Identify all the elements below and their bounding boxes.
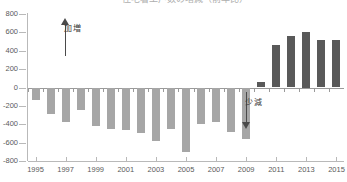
x-axis-tick-label: 2011 (261, 165, 291, 174)
bar-2000 (107, 88, 115, 129)
x-axis-tick (133, 88, 134, 92)
x-axis-tick (148, 88, 149, 92)
annotation-decrease-label: 減少 (251, 98, 261, 106)
bar-chart: 住宅着工戸数の増減（前年比） 8006004002000-200-400-600… (0, 0, 347, 182)
x-axis-bottom-tick (336, 157, 337, 161)
y-axis-tick-label: 800 (0, 10, 18, 18)
x-axis-bottom-tick (306, 157, 307, 161)
y-axis-tick (19, 143, 26, 144)
y-axis-tick (19, 124, 26, 125)
arrow-down-stem (246, 92, 247, 124)
x-axis-tick-label: 1999 (81, 165, 111, 174)
bar-2004 (167, 88, 175, 129)
y-axis-labels: 8006004002000-200-400-600-800 (0, 0, 18, 182)
x-axis-tick-label: 1995 (21, 165, 51, 174)
arrow-down-icon (242, 122, 250, 129)
bar-2015 (332, 40, 340, 88)
bar-2001 (122, 88, 130, 130)
y-axis-tick (19, 161, 26, 162)
x-axis-bottom-tick (126, 157, 127, 161)
y-axis-tick-label: 200 (0, 65, 18, 73)
x-axis-tick (299, 88, 300, 92)
plot-area (28, 14, 344, 161)
x-axis-tick (254, 88, 255, 92)
x-axis-tick (314, 88, 315, 92)
bar-2002 (137, 88, 145, 134)
bar-2013 (302, 32, 310, 87)
x-axis-tick (58, 88, 59, 92)
x-axis-bottom-tick (66, 157, 67, 161)
x-axis-tick (28, 88, 29, 92)
y-axis-tick (19, 14, 26, 15)
y-axis-tick-label: 600 (0, 28, 18, 36)
x-axis-bottom-tick (156, 157, 157, 161)
y-axis-tick-label: -800 (0, 157, 18, 165)
x-axis-tick-label: 2013 (291, 165, 321, 174)
x-axis-tick-label: 2009 (231, 165, 261, 174)
bar-1996 (47, 88, 55, 115)
x-axis-bottom-tick (246, 157, 247, 161)
x-axis-tick (103, 88, 104, 92)
y-axis-tick-label: 400 (0, 47, 18, 55)
x-axis-tick-label: 2007 (201, 165, 231, 174)
bar-1995 (32, 88, 40, 101)
x-axis-tick (329, 88, 330, 92)
bar-2008 (227, 88, 235, 132)
y-axis-tick (19, 51, 26, 52)
bar-2006 (197, 88, 205, 125)
x-axis-tick (224, 88, 225, 92)
x-axis-tick (88, 88, 89, 92)
x-axis-bottom-tick (216, 157, 217, 161)
x-axis-bottom-tick (276, 157, 277, 161)
x-axis-tick (269, 88, 270, 92)
x-axis-tick-label: 2005 (171, 165, 201, 174)
x-axis-tick-label: 1997 (51, 165, 81, 174)
x-axis-bottom-tick (36, 157, 37, 161)
bar-2011 (272, 45, 280, 87)
x-axis-tick (194, 88, 195, 92)
y-axis-tick-label: -400 (0, 120, 18, 128)
bar-2010 (257, 82, 265, 88)
x-axis-tick (163, 88, 164, 92)
x-axis-tick-label: 2003 (141, 165, 171, 174)
bar-2003 (152, 88, 160, 141)
annotation-increase-label: 増加 (70, 24, 80, 32)
x-axis-tick-label: 2015 (321, 165, 347, 174)
chart-title: 住宅着工戸数の増減（前年比） (45, 0, 325, 5)
bar-1997 (62, 88, 70, 123)
x-axis-tick (178, 88, 179, 92)
x-axis-bottom-tick (186, 157, 187, 161)
x-axis-tick (73, 88, 74, 92)
y-axis-tick-label: -600 (0, 139, 18, 147)
y-axis-tick (19, 69, 26, 70)
bar-2005 (182, 88, 190, 152)
y-axis-tick (19, 88, 26, 89)
bar-2014 (317, 40, 325, 88)
bar-2012 (287, 36, 295, 87)
bar-1998 (77, 88, 85, 111)
x-axis-tick (284, 88, 285, 92)
x-axis-line (28, 161, 344, 162)
bar-2007 (212, 88, 220, 123)
x-axis-tick-label: 2001 (111, 165, 141, 174)
x-axis-tick (239, 88, 240, 92)
x-axis-tick (118, 88, 119, 92)
y-axis-tick-label: 0 (0, 84, 18, 92)
x-axis-tick (209, 88, 210, 92)
y-axis-tick-label: -200 (0, 102, 18, 110)
x-axis-tick (43, 88, 44, 92)
y-axis-tick (19, 32, 26, 33)
x-axis-bottom-tick (96, 157, 97, 161)
y-axis-tick (19, 106, 26, 107)
bar-1999 (92, 88, 100, 127)
